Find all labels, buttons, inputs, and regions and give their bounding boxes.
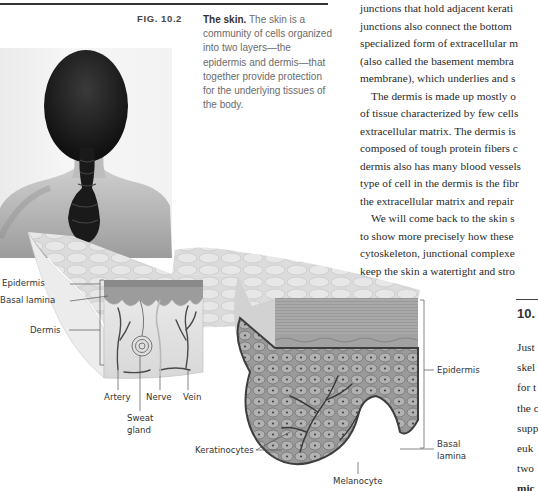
body-text-line: The dermis is made up mostly o — [360, 88, 538, 106]
figure-caption: The skin. The skin is a community of cel… — [203, 13, 338, 112]
body-text-line: cytoskeleton, junctional complexe — [360, 245, 538, 263]
body-text-line: junctions also connect the bottom — [360, 18, 538, 36]
section-text-column: Just skel for t the c supp euk two mic — [517, 337, 538, 491]
section-text-line: for t — [517, 377, 538, 397]
section-text-line: supp — [517, 418, 538, 438]
body-text-line: (also called the basement membra — [360, 53, 538, 71]
section-text-line: Just — [517, 337, 538, 357]
body-text-line: keep the skin a watertight and stro — [360, 263, 538, 281]
caption-line: community of cells organized — [203, 28, 332, 39]
body-text-line: membrane), which underlies and s — [360, 70, 538, 88]
section-rule — [516, 299, 538, 300]
section-text-line: euk — [517, 438, 538, 458]
label-melanocyte: Melanocyte — [333, 476, 383, 486]
body-text-line: We will come back to the skin s — [360, 210, 538, 228]
body-text-line: the extracellular matrix and repair — [360, 193, 538, 211]
label-epidermis-right: Epidermis — [437, 365, 480, 375]
caption-line: into two layers—the — [203, 42, 291, 53]
label-nerve: Nerve — [146, 392, 172, 402]
section-text-line: the c — [517, 398, 538, 418]
body-text-line: composed of tough protein fibers c — [360, 140, 538, 158]
body-text-line: dermis also has many blood vessels — [360, 158, 538, 176]
skin-photo — [0, 48, 172, 258]
label-sweat-gland-line1: Sweat — [127, 413, 153, 423]
label-artery: Artery — [104, 392, 131, 402]
label-basal-lamina-left: Basal lamina — [0, 295, 55, 305]
label-sweat-gland-line2: gland — [127, 425, 151, 435]
caption-title: The skin. — [203, 14, 246, 25]
label-epidermis-left: Epidermis — [2, 278, 45, 288]
label-basal-lamina-right-line2: lamina — [437, 451, 466, 461]
body-text-line: to show more precisely how these — [360, 228, 538, 246]
woman-back-illustration — [0, 48, 172, 258]
caption-line: for the underlying tissues of — [203, 85, 325, 96]
body-text-column: junctions that hold adjacent kerati junc… — [360, 0, 538, 280]
label-keratinocytes: Keratinocytes — [195, 445, 254, 455]
section-number: 10. — [517, 306, 535, 321]
caption-line: The skin is a — [249, 14, 305, 25]
body-text-line: extracellular matrix. The dermis is — [360, 123, 538, 141]
label-vein: Vein — [183, 392, 201, 402]
section-text-line-bold: mic — [517, 478, 538, 491]
label-basal-lamina-right-line1: Basal — [437, 439, 460, 449]
body-text-line: junctions that hold adjacent kerati — [360, 0, 538, 18]
body-text-line: of tissue characterized by few cells — [360, 105, 538, 123]
caption-line: epidermis and dermis—that — [203, 57, 325, 68]
caption-line: together provide protection — [203, 71, 322, 82]
top-rule — [0, 3, 328, 5]
section-text-line: skel — [517, 357, 538, 377]
label-dermis: Dermis — [30, 325, 61, 335]
caption-line: the body. — [203, 99, 243, 110]
section-text-line: two — [517, 458, 538, 478]
body-text-line: type of cell in the dermis is the fibr — [360, 175, 538, 193]
figure-label: FIG. 10.2 — [137, 13, 182, 24]
body-text-line: specialized form of extracellular m — [360, 35, 538, 53]
